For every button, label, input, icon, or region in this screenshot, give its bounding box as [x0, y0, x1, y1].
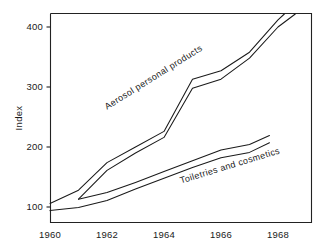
- line-chart: 100200300400 19601962196419661968 Aeroso…: [0, 0, 326, 252]
- x-tick-label-1962: 1962: [96, 229, 118, 240]
- x-tick-label-1964: 1964: [153, 229, 175, 240]
- series-line-3: [50, 143, 269, 211]
- y-tick-label-300: 300: [27, 81, 43, 92]
- series-annotation-0: Aerosol personal products: [103, 43, 205, 112]
- series-line-0: [50, 14, 284, 203]
- x-tick-label-1960: 1960: [39, 229, 61, 240]
- x-tick-label-1966: 1966: [210, 229, 232, 240]
- x-tick-label-1968: 1968: [267, 229, 289, 240]
- chart-container: 100200300400 19601962196419661968 Aeroso…: [0, 0, 326, 252]
- plot-frame: [51, 14, 312, 223]
- y-tick-label-400: 400: [27, 21, 43, 32]
- series-lines: [50, 14, 295, 211]
- series-annotations: Aerosol personal productsToiletries and …: [103, 43, 281, 186]
- y-tick-label-200: 200: [27, 141, 43, 152]
- y-axis-ticks: [47, 27, 51, 207]
- series-annotation-1: Toiletries and cosmetics: [179, 146, 281, 186]
- x-axis-tick-labels: 19601962196419661968: [39, 229, 289, 240]
- y-tick-label-100: 100: [27, 201, 43, 212]
- y-axis-title: Index: [13, 106, 24, 131]
- y-axis-tick-labels: 100200300400: [27, 21, 43, 212]
